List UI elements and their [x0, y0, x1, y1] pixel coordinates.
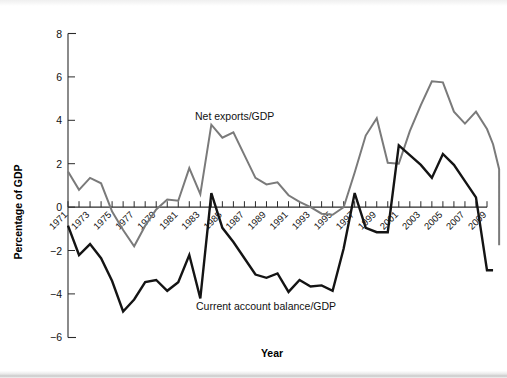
- y-tick-labels: 8 6 4 2 0 −2 −4 −6: [50, 28, 62, 344]
- x-tick-label: 1993: [289, 209, 312, 232]
- chart-svg: 8 6 4 2 0 −2 −4 −6 Percentage of GDP 197…: [0, 0, 507, 378]
- x-tick-label: 1981: [157, 209, 180, 232]
- x-tick-label: 1995: [311, 209, 334, 232]
- y-tick-label: 2: [56, 158, 62, 170]
- x-tick-marks: [68, 201, 487, 207]
- annotation-net-exports: Net exports/GDP: [195, 110, 274, 122]
- y-tick-label: 8: [56, 28, 62, 40]
- annotation-current-account: Current account balance/GDP: [196, 300, 336, 312]
- y-tick-label: −2: [50, 245, 62, 257]
- y-axis-title: Percentage of GDP: [12, 164, 24, 259]
- y-tick-label: 6: [56, 71, 62, 83]
- y-tick-label: −4: [50, 288, 62, 300]
- x-tick-label: 2005: [422, 209, 445, 232]
- y-tick-marks: [68, 77, 75, 294]
- x-axis-title: Year: [261, 347, 283, 359]
- y-tick-label: 4: [56, 114, 62, 126]
- x-tick-label: 1989: [245, 209, 268, 232]
- x-tick-label: 2003: [400, 209, 423, 232]
- x-tick-label: 1975: [91, 209, 114, 232]
- screenshot-root: 8 6 4 2 0 −2 −4 −6 Percentage of GDP 197…: [0, 0, 507, 378]
- x-tick-label: 1991: [267, 209, 290, 232]
- x-tick-label: 1973: [69, 209, 92, 232]
- chart-figure: 8 6 4 2 0 −2 −4 −6 Percentage of GDP 197…: [0, 0, 507, 378]
- y-tick-label: −6: [50, 331, 62, 343]
- x-tick-label: 2007: [444, 209, 467, 232]
- x-tick-label: 1971: [47, 209, 70, 232]
- x-tick-label: 1983: [179, 209, 202, 232]
- x-tick-label: 1987: [223, 209, 246, 232]
